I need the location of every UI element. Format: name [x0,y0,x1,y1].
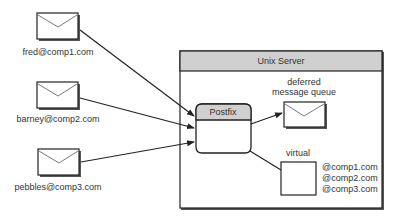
sender-label: fred@comp1.com [22,47,93,57]
sender-label: pebbles@comp3.com [14,182,101,192]
postfix-label: Postfix [209,107,236,117]
message-queue-label: message queue [272,87,336,97]
virtual-domain: @comp1.com [322,162,378,172]
server-title: Unix Server [257,56,304,66]
virtual-domain: @comp3.com [322,184,378,194]
envelope-icon [37,82,80,110]
virtual-domain: @comp2.com [322,173,378,183]
deferred-label: deferred [287,77,321,87]
virtual-label: virtual [286,148,310,158]
sender-label: barney@comp2.com [16,114,99,124]
envelope-icon [38,149,81,177]
envelope-icon [37,13,80,41]
deferred-queue-envelope-icon [284,102,327,129]
virtual-box [281,162,316,195]
